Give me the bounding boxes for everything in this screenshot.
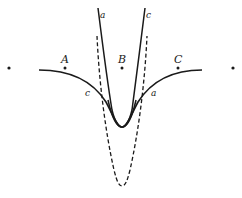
point-left-outer	[7, 66, 10, 69]
label-wide-a: a	[151, 88, 156, 98]
point-C	[177, 67, 180, 70]
label-wide-c: c	[85, 88, 90, 98]
point-A	[64, 67, 67, 70]
label-A: A	[60, 53, 69, 66]
label-narrow-c: c	[146, 10, 151, 20]
label-narrow-a: a	[100, 10, 105, 20]
wide-curve-c-a	[39, 70, 202, 127]
point-right-outer	[231, 66, 234, 69]
label-B: B	[117, 53, 126, 66]
potential-curves-diagram: A B C a c c a	[0, 0, 242, 198]
label-C: C	[174, 53, 183, 66]
narrow-curve-c	[108, 8, 145, 127]
point-B	[121, 67, 124, 70]
